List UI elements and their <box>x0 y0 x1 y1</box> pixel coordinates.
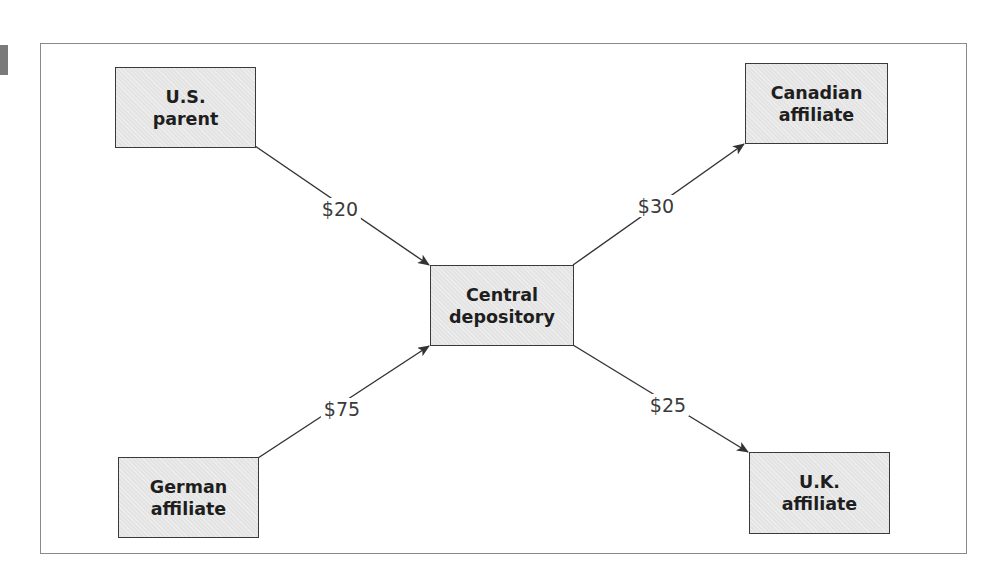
node-german-line1: German <box>150 476 227 498</box>
node-german-affiliate: German affiliate <box>118 457 259 538</box>
node-us-parent-line2: parent <box>153 108 219 130</box>
node-canadian-affiliate: Canadian affiliate <box>745 63 888 144</box>
node-central-line1: Central <box>466 284 538 306</box>
flow-label-german-central: $75 <box>321 398 363 420</box>
flow-label-central-canadian: $30 <box>635 195 677 217</box>
node-us-parent: U.S. parent <box>115 67 256 148</box>
node-uk-line2: affiliate <box>782 493 857 515</box>
node-central-depository: Central depository <box>430 265 574 346</box>
node-canadian-line1: Canadian <box>771 82 863 104</box>
node-uk-line1: U.K. <box>799 471 840 493</box>
node-central-line2: depository <box>449 306 555 328</box>
node-german-line2: affiliate <box>151 498 226 520</box>
node-us-parent-line1: U.S. <box>165 86 205 108</box>
flow-label-us-central: $20 <box>319 198 361 220</box>
flow-label-central-uk: $25 <box>647 394 689 416</box>
node-uk-affiliate: U.K. affiliate <box>749 452 890 534</box>
node-canadian-line2: affiliate <box>779 104 854 126</box>
